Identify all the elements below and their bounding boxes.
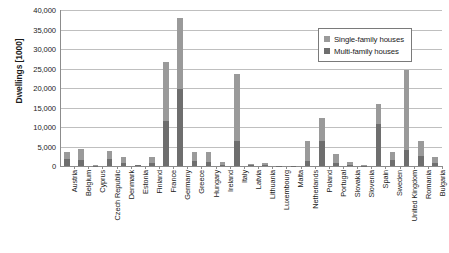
y-axis-tick-label: 15,000: [33, 103, 56, 112]
bar-group: [177, 10, 183, 166]
bar-chart: Dwellings [1000] 05,00010,00015,00020,00…: [0, 0, 449, 253]
x-axis-tick-label: Slovakia: [353, 170, 362, 197]
x-axis-tick-label: Romania: [424, 170, 433, 199]
bar-multi-family: [107, 159, 113, 166]
legend-label-multi-family: Multi-family houses: [334, 47, 399, 56]
x-axis-tick: [173, 166, 174, 169]
x-axis-tick-label: Sweden: [395, 170, 404, 196]
x-axis-tick: [74, 166, 75, 169]
x-axis-tick: [201, 166, 202, 169]
x-axis-tick: [442, 166, 443, 169]
x-axis-tick-label: United Kingdom: [410, 170, 419, 221]
bar-group: [135, 10, 141, 166]
bar-group: [262, 10, 268, 166]
bar-group: [418, 10, 424, 166]
bar-group: [248, 10, 254, 166]
x-axis-tick: [230, 166, 231, 169]
x-axis-tick-label: Lithuania: [268, 170, 277, 199]
x-axis-tick: [244, 166, 245, 169]
bar-group: [121, 10, 127, 166]
bar-group: [234, 10, 240, 166]
x-axis-tick-label: Austria: [70, 170, 79, 192]
bar-group: [276, 10, 282, 166]
y-axis-tick-label: 20,000: [33, 84, 56, 93]
x-axis-tick-label: Cyprus: [98, 170, 107, 193]
bar-group: [64, 10, 70, 166]
bar-group: [192, 10, 198, 166]
legend-swatch-multi-family: [324, 48, 330, 54]
bar-group: [305, 10, 311, 166]
x-axis-tick-label: France: [169, 170, 178, 192]
x-axis-tick-label: Netherlands: [311, 170, 320, 209]
x-axis-tick: [371, 166, 372, 169]
bar-multi-family: [376, 124, 382, 166]
bar-group: [78, 10, 84, 166]
x-axis-tick: [145, 166, 146, 169]
x-axis-tick: [414, 166, 415, 169]
x-axis-tick: [315, 166, 316, 169]
x-axis-tick: [216, 166, 217, 169]
x-axis-tick-label: Germany: [183, 170, 192, 200]
x-axis-tick: [301, 166, 302, 169]
y-axis-tick-label: 35,000: [33, 25, 56, 34]
legend-label-single-family: Single-family houses: [334, 35, 404, 44]
bar-group: [163, 10, 169, 166]
y-axis-tick-label: 30,000: [33, 45, 56, 54]
x-axis-tick-label: Slovenia: [367, 170, 376, 198]
x-axis-tick-label: Malta: [296, 170, 305, 188]
x-axis-tick: [428, 166, 429, 169]
x-axis-tick-label: Luxembourg: [282, 170, 291, 210]
x-axis-tick: [343, 166, 344, 169]
bar-group: [220, 10, 226, 166]
x-axis-tick: [88, 166, 89, 169]
x-axis-tick-label: Italy: [240, 170, 249, 183]
x-axis-tick: [357, 166, 358, 169]
bar-multi-family: [404, 150, 410, 166]
x-axis-tick-label: Ireland: [226, 170, 235, 192]
y-axis-tick-label: 25,000: [33, 64, 56, 73]
bar-group: [206, 10, 212, 166]
x-axis-tick: [400, 166, 401, 169]
x-axis-tick-label: Denmark: [127, 170, 136, 199]
x-axis-tick-label: Latvia: [254, 170, 263, 189]
bar-group: [149, 10, 155, 166]
x-axis-tick: [117, 166, 118, 169]
x-axis-tick: [102, 166, 103, 169]
bar-group: [93, 10, 99, 166]
y-axis-tick-label: 10,000: [33, 123, 56, 132]
bar-multi-family: [234, 141, 240, 166]
bar-group: [432, 10, 438, 166]
x-axis-tick-label: Czech Republic: [113, 170, 122, 220]
x-axis-tick: [258, 166, 259, 169]
bar-multi-family: [177, 89, 183, 166]
x-axis-tick: [131, 166, 132, 169]
legend-item: Single-family houses: [324, 33, 404, 45]
x-axis-tick: [159, 166, 160, 169]
x-axis-tick: [329, 166, 330, 169]
y-axis-tick-label: 5,000: [37, 142, 56, 151]
bar-multi-family: [418, 156, 424, 166]
x-axis-tick-label: Hungary: [212, 170, 221, 197]
x-axis-tick-label: Spain: [381, 170, 390, 188]
x-axis-tick: [385, 166, 386, 169]
chart-legend: Single-family houses Multi-family houses: [318, 28, 412, 62]
bar-multi-family: [64, 159, 70, 166]
y-axis-tick-label: 40,000: [33, 6, 56, 15]
x-axis-tick: [272, 166, 273, 169]
x-axis-tick-label: Bulgaria: [438, 170, 447, 196]
x-axis-tick-label: Belgium: [84, 170, 93, 196]
x-axis-tick-labels: AustriaBelgiumCyprusCzech RepublicDenmar…: [60, 170, 442, 250]
legend-item: Multi-family houses: [324, 45, 404, 57]
y-axis-tick-labels: 05,00010,00015,00020,00025,00030,00035,0…: [18, 10, 58, 166]
x-axis-tick-label: Estonia: [141, 170, 150, 194]
x-axis-tick: [187, 166, 188, 169]
x-axis-tick-label: Greece: [197, 170, 206, 194]
bar-group: [291, 10, 297, 166]
x-axis-tick-label: Finland: [155, 170, 164, 194]
bar-multi-family: [163, 121, 169, 166]
legend-swatch-single-family: [324, 36, 330, 42]
x-axis-tick-label: Poland: [325, 170, 334, 192]
x-axis-tick: [286, 166, 287, 169]
bar-multi-family: [319, 141, 325, 166]
bar-group: [107, 10, 113, 166]
